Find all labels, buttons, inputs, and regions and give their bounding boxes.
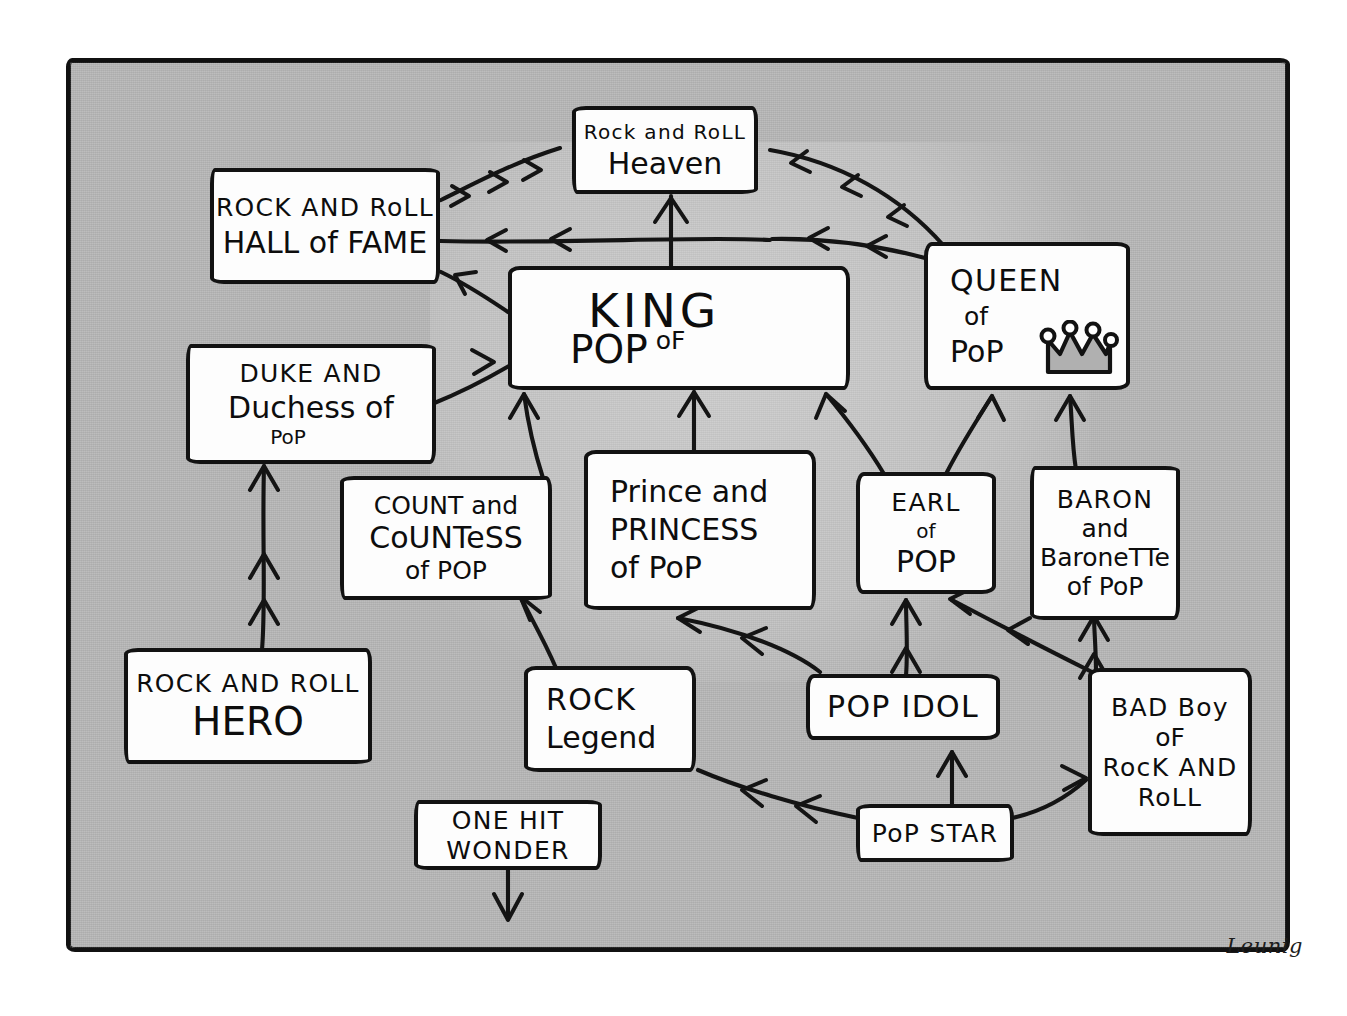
node-rock-and-roll-hall-of-fame[interactable]: ROCK AND RoLL HALL of FAME <box>210 168 440 284</box>
node-line: of POP <box>405 558 487 583</box>
node-line: Rock and RoLL <box>584 122 747 142</box>
node-line: PoP STAR <box>872 821 999 846</box>
node-line: ROCK AND RoLL <box>216 195 434 220</box>
crown-icon <box>1038 320 1120 376</box>
node-rock-legend[interactable]: ROCK Legend <box>524 666 696 772</box>
node-line: QUEEN <box>950 266 1062 296</box>
node-one-hit-wonder[interactable]: ONE HIT WONDER <box>414 800 602 870</box>
node-line: of <box>964 304 988 329</box>
node-line: and <box>1081 516 1128 541</box>
node-rock-and-roll-heaven[interactable]: Rock and RoLL Heaven <box>572 106 758 194</box>
node-queen-of-pop[interactable]: QUEEN of PoP <box>924 242 1130 390</box>
node-pop-star[interactable]: PoP STAR <box>856 804 1014 862</box>
node-line: POP IDOL <box>827 692 979 722</box>
node-line: ROCK AND ROLL <box>136 671 360 696</box>
node-line: of PoP <box>1067 574 1144 599</box>
node-line: HERO <box>192 702 304 741</box>
node-line: RoLL <box>1138 785 1203 810</box>
node-line: BaroneTTe <box>1040 545 1170 570</box>
node-line: ONE HIT <box>452 808 565 833</box>
node-line: RocK AND <box>1102 755 1237 780</box>
node-line: Prince and <box>610 477 768 507</box>
node-prince-and-princess-of-pop[interactable]: Prince and PRINCESS of PoP <box>584 450 816 610</box>
node-line: POP <box>896 547 956 577</box>
node-line: COUNT and <box>374 493 518 518</box>
node-duke-and-duchess-of-pop[interactable]: DUKE AND Duchess of PoP <box>186 344 436 464</box>
node-line: Legend <box>546 723 656 753</box>
node-line: Heaven <box>608 149 723 179</box>
node-earl-of-pop[interactable]: EARL of POP <box>856 472 996 594</box>
node-line: oF <box>656 328 686 353</box>
node-count-and-countess-of-pop[interactable]: COUNT and CoUNTeSS of POP <box>340 476 552 600</box>
node-baron-and-baronette-of-pop[interactable]: BARON and BaroneTTe of PoP <box>1030 466 1180 620</box>
node-line: POP <box>570 330 648 369</box>
node-line: PoP <box>270 427 306 447</box>
node-king-of-pop[interactable]: KING POP oF <box>508 266 850 390</box>
node-line: BARON <box>1057 487 1154 512</box>
node-line: CoUNTeSS <box>369 523 522 553</box>
node-line: PoP <box>950 337 1003 367</box>
node-bad-boy-of-rock-and-roll[interactable]: BAD Boy oF RocK AND RoLL <box>1088 668 1252 836</box>
node-rock-and-roll-hero[interactable]: ROCK AND ROLL HERO <box>124 648 372 764</box>
node-line: DUKE AND <box>239 361 382 386</box>
cartoon-canvas: Rock and RoLL Heaven ROCK AND RoLL HALL … <box>0 0 1347 1016</box>
node-line: ROCK <box>546 685 636 715</box>
artist-signature: Leunig <box>1226 934 1303 958</box>
node-line: of PoP <box>610 553 702 583</box>
node-pop-idol[interactable]: POP IDOL <box>806 674 1000 740</box>
node-line: HALL of FAME <box>223 228 427 258</box>
node-line: WONDER <box>446 838 569 863</box>
node-line: oF <box>1155 725 1185 750</box>
node-line: BAD Boy <box>1111 695 1229 720</box>
node-line: of <box>916 521 935 541</box>
node-line: EARL <box>891 490 960 515</box>
node-line: Duchess of <box>228 393 394 423</box>
node-line: PRINCESS <box>610 515 758 545</box>
